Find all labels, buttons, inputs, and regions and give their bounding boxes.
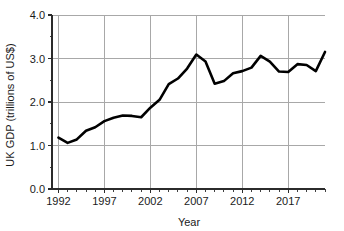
x-axis-ticks (58, 189, 325, 193)
x-tick-label: 1992 (46, 195, 70, 207)
y-tick-label: 0.0 (30, 183, 45, 195)
y-axis-tick-labels: 0.01.02.03.04.0 (30, 9, 45, 195)
x-axis-title: Year (178, 216, 201, 228)
data-line-uk-gdp (58, 52, 325, 143)
line-chart: 0.01.02.03.04.0 199219972002200720122017… (0, 0, 344, 231)
y-tick-label: 1.0 (30, 140, 45, 152)
y-axis-title: UK GDP (trillions of US$) (4, 43, 16, 166)
chart-figure: 0.01.02.03.04.0 199219972002200720122017… (0, 0, 344, 231)
y-tick-label: 4.0 (30, 9, 45, 21)
gridlines-horizontal (52, 15, 325, 146)
data-series-uk-gdp (58, 52, 325, 143)
x-axis-tick-labels: 199219972002200720122017 (46, 195, 300, 207)
x-tick-label: 2017 (276, 195, 300, 207)
y-tick-label: 2.0 (30, 96, 45, 108)
x-tick-label: 2007 (184, 195, 208, 207)
x-tick-label: 1997 (92, 195, 116, 207)
x-tick-label: 2002 (138, 195, 162, 207)
x-tick-label: 2012 (230, 195, 254, 207)
y-tick-label: 3.0 (30, 53, 45, 65)
